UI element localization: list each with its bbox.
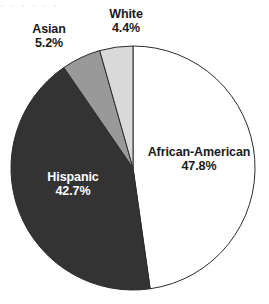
slice-label-hispanic-name: Hispanic bbox=[28, 170, 118, 184]
slice-label-white-value: 4.4% bbox=[84, 21, 168, 35]
slice-label-african-american-name: African-American bbox=[143, 145, 255, 159]
slice-label-hispanic-value: 42.7% bbox=[28, 184, 118, 198]
slice-label-african-american-value: 47.8% bbox=[143, 159, 255, 173]
slice-label-white: White 4.4% bbox=[84, 7, 168, 35]
slice-label-hispanic: Hispanic 42.7% bbox=[28, 170, 118, 198]
slice-label-white-name: White bbox=[84, 7, 168, 21]
slice-label-asian-value: 5.2% bbox=[7, 36, 91, 50]
slice-label-asian-name: Asian bbox=[7, 22, 91, 36]
slice-label-african-american: African-American 47.8% bbox=[143, 145, 255, 173]
slice-label-asian: Asian 5.2% bbox=[7, 22, 91, 50]
pie-chart-figure: · · · · · · White 4.4% Asian 5.2% Africa… bbox=[0, 0, 269, 304]
